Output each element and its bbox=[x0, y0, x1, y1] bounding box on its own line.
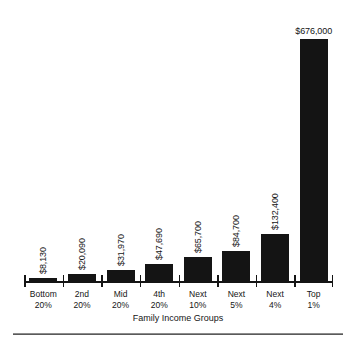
bar-slot: $84,700 bbox=[217, 16, 256, 281]
category-label-line: 4% bbox=[256, 300, 295, 311]
bar-slot: $132,400 bbox=[256, 16, 295, 281]
x-axis-tick bbox=[24, 275, 26, 287]
bar bbox=[145, 264, 173, 281]
x-axis-category-label: 2nd20% bbox=[63, 289, 102, 311]
bar bbox=[222, 251, 250, 281]
bar-value-label: $132,400 bbox=[270, 193, 280, 230]
x-axis-category-label: Next4% bbox=[256, 289, 295, 311]
category-label-line: 5% bbox=[217, 300, 256, 311]
bar-value-label: $676,000 bbox=[295, 26, 332, 36]
x-axis-title: Family Income Groups bbox=[0, 313, 356, 323]
x-axis-tick bbox=[101, 275, 103, 287]
category-label-line: 20% bbox=[140, 300, 179, 311]
category-label-line: 2nd bbox=[63, 289, 102, 300]
category-label-line: Next bbox=[217, 289, 256, 300]
category-label-line: 4th bbox=[140, 289, 179, 300]
bar-value-label: $84,700 bbox=[231, 215, 241, 247]
bar bbox=[107, 270, 135, 281]
bar-slot: $65,700 bbox=[179, 16, 218, 281]
plot-area: $8,130$20,090$31,970$47,690$65,700$84,70… bbox=[24, 16, 333, 281]
bar-value-label: $8,130 bbox=[38, 247, 48, 274]
bar bbox=[184, 257, 212, 281]
bar bbox=[261, 234, 289, 281]
bar-slot: $31,970 bbox=[101, 16, 140, 281]
x-axis-tick bbox=[217, 275, 219, 287]
category-label-line: 20% bbox=[101, 300, 140, 311]
bar-slot: $8,130 bbox=[24, 16, 63, 281]
category-label-line: Next bbox=[256, 289, 295, 300]
category-label-line: Next bbox=[179, 289, 218, 300]
x-axis-tick bbox=[294, 275, 296, 287]
x-axis-tick bbox=[179, 275, 181, 287]
x-axis-tick bbox=[332, 275, 334, 287]
x-axis-category-label: 4th20% bbox=[140, 289, 179, 311]
bar-chart: $8,130$20,090$31,970$47,690$65,700$84,70… bbox=[0, 0, 356, 348]
x-axis-category-label: Next5% bbox=[217, 289, 256, 311]
bar-value-label: $47,690 bbox=[154, 228, 164, 260]
x-axis-tick bbox=[63, 275, 65, 287]
bar bbox=[68, 274, 96, 281]
bar-slot: $47,690 bbox=[140, 16, 179, 281]
category-label-line: Top bbox=[294, 289, 333, 300]
x-axis-category-label: Top1% bbox=[294, 289, 333, 311]
bottom-divider-rule bbox=[13, 333, 343, 335]
bar-value-label: $65,700 bbox=[192, 222, 202, 254]
x-axis-tick bbox=[140, 275, 142, 287]
bar-value-label: $20,090 bbox=[76, 238, 86, 270]
category-label-line: 10% bbox=[179, 300, 218, 311]
category-label-line: 1% bbox=[294, 300, 333, 311]
category-label-line: 20% bbox=[63, 300, 102, 311]
x-axis-category-label: Next10% bbox=[179, 289, 218, 311]
x-axis-tick bbox=[256, 275, 258, 287]
category-label-line: Bottom bbox=[24, 289, 63, 300]
x-axis-category-label: Mid20% bbox=[101, 289, 140, 311]
bar-slot: $676,000 bbox=[294, 16, 333, 281]
bar bbox=[300, 39, 328, 281]
bar-value-label: $31,970 bbox=[115, 234, 125, 266]
bar-slot: $20,090 bbox=[63, 16, 102, 281]
category-label-line: Mid bbox=[101, 289, 140, 300]
x-axis-category-labels: Bottom20%2nd20%Mid20%4th20%Next10%Next5%… bbox=[24, 289, 333, 315]
x-axis-category-label: Bottom20% bbox=[24, 289, 63, 311]
category-label-line: 20% bbox=[24, 300, 63, 311]
